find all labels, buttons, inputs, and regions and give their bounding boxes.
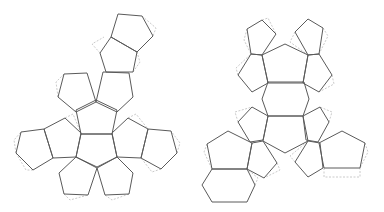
pentagon-face (97, 157, 133, 195)
pentagon-face (16, 129, 53, 170)
pentagon-face (303, 54, 332, 92)
pentagon-face (238, 54, 268, 92)
glue-tab (319, 28, 328, 54)
pentagon-face (58, 73, 96, 112)
pentagon-face (295, 19, 323, 55)
glue-tab (324, 168, 360, 177)
pentagon-face (96, 72, 133, 112)
right-net (202, 18, 368, 202)
pentagon-face (295, 141, 323, 177)
polyhedron-nets-svg (0, 0, 384, 212)
hexagon-face (263, 116, 308, 153)
pentagon-face (319, 131, 365, 168)
pentagon-face (44, 118, 81, 158)
left-net (14, 14, 180, 200)
pentagon-face (76, 100, 117, 134)
hexagon-face (202, 169, 255, 202)
pentagon-face (141, 129, 177, 169)
diagram-canvas (0, 0, 384, 212)
pentagon-face (100, 37, 137, 72)
glue-tab (128, 114, 148, 129)
pentagon-face (76, 134, 117, 167)
pentagon-face (207, 131, 252, 169)
glue-tab (290, 32, 308, 55)
hexagon-face (262, 82, 309, 116)
pentagon-face (59, 157, 97, 195)
glue-tab (290, 141, 308, 162)
pentagon-face (111, 14, 153, 52)
